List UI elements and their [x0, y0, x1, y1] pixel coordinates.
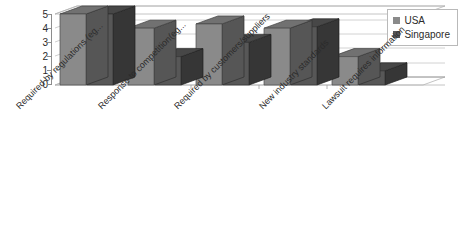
legend-label-singapore: Singapore	[404, 29, 450, 40]
legend-label-usa: USA	[404, 15, 425, 26]
x-axis-category-labels: Required by regulations (eg... Response …	[0, 92, 466, 212]
bar-usa-1-side	[86, 6, 108, 85]
bar-chart: 5 4 3 2 1 0	[0, 0, 466, 228]
legend-item-usa[interactable]: USA	[393, 13, 450, 27]
legend-swatch-usa	[393, 17, 400, 24]
bar-singapore-3-side	[249, 34, 271, 85]
